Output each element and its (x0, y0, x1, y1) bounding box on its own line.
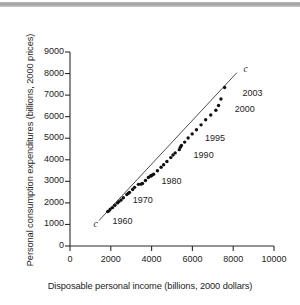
data-point (169, 156, 172, 159)
y-tick-label: 2000 (20, 197, 64, 207)
curve-label-c-upper: c (243, 64, 247, 74)
data-point (141, 182, 144, 185)
y-tick-label: 3000 (20, 175, 64, 185)
y-tick-label: 6000 (20, 111, 64, 121)
point-label-1995: 1995 (205, 133, 225, 143)
data-point (204, 118, 207, 121)
data-point (113, 204, 116, 207)
data-point (180, 144, 183, 147)
point-label-2000: 2000 (235, 104, 255, 114)
reference-line-c (99, 73, 237, 221)
y-tick-label: 4000 (20, 154, 64, 164)
y-axis-ticks (65, 52, 70, 246)
point-label-1970: 1970 (133, 195, 153, 205)
data-point (165, 160, 168, 163)
data-point (133, 186, 136, 189)
data-point (190, 132, 193, 135)
data-point (144, 179, 147, 182)
data-point (152, 173, 155, 176)
y-tick-label: 5000 (20, 132, 64, 142)
point-label-2003: 2003 (242, 88, 262, 98)
data-point (195, 128, 198, 131)
data-point (199, 123, 202, 126)
data-point (217, 104, 220, 107)
point-label-1960: 1960 (112, 216, 132, 226)
y-tick-label: 1000 (20, 218, 64, 228)
reference-line-segment (99, 73, 237, 221)
data-point (122, 196, 125, 199)
y-tick-label: 9000 (20, 46, 64, 56)
y-tick-label: 0 (20, 240, 64, 250)
curve-label-c-lower: c (93, 219, 97, 229)
point-label-1980: 1980 (161, 176, 181, 186)
point-label-1990: 1990 (194, 150, 214, 160)
x-tick-label: 10000 (249, 254, 299, 264)
figure-scatter-consumption-vs-income: Personal consumption expenditures (billi… (0, 0, 300, 305)
data-point (156, 169, 159, 172)
data-point (159, 166, 162, 169)
data-point (173, 151, 176, 154)
data-point (219, 97, 222, 100)
data-point (214, 109, 217, 112)
data-point (183, 140, 186, 143)
data-point (186, 136, 189, 139)
data-point (209, 113, 212, 116)
y-tick-label: 8000 (20, 68, 64, 78)
y-tick-label: 7000 (20, 89, 64, 99)
data-point (128, 191, 131, 194)
data-point (223, 86, 226, 89)
axes-group (70, 52, 274, 246)
data-point (162, 163, 165, 166)
x-axis-ticks (70, 246, 274, 251)
